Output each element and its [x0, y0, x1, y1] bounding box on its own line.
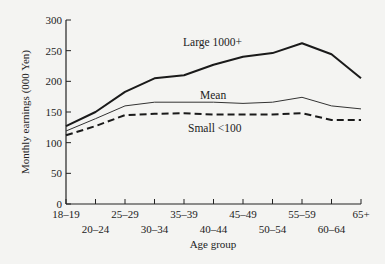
- series-label-large: Large 1000+: [183, 36, 242, 49]
- x-tick-label: 45–49: [229, 208, 257, 220]
- series-label-small: Small <100: [188, 122, 242, 134]
- x-tick-label: 25–29: [111, 208, 139, 220]
- x-tick-label: 20–24: [82, 223, 110, 235]
- x-axis-title: Age group: [190, 238, 237, 250]
- x-axis: 18–1920–2425–2930–3435–3940–4445–4950–54…: [52, 199, 369, 235]
- x-tick-label: 40–44: [200, 223, 228, 235]
- y-tick-label: 200: [46, 75, 63, 87]
- y-tick-label: 50: [51, 167, 63, 179]
- y-axis: 050100150200250300: [46, 14, 72, 210]
- x-tick-label: 30–34: [141, 223, 169, 235]
- y-tick-label: 100: [46, 137, 63, 149]
- x-tick-label: 50–54: [259, 223, 287, 235]
- x-tick-label: 18–19: [52, 208, 80, 220]
- series-line-large: [66, 43, 361, 126]
- y-axis-title: Monthly earnings (000 Yen): [19, 50, 32, 174]
- y-tick-label: 150: [46, 106, 63, 118]
- x-tick-label: 65+: [352, 208, 369, 220]
- y-tick-label: 300: [46, 14, 63, 26]
- x-tick-label: 60–64: [318, 223, 346, 235]
- y-tick-label: 250: [46, 45, 63, 57]
- x-tick-label: 55–59: [288, 208, 316, 220]
- series-label-mean: Mean: [200, 89, 226, 101]
- x-tick-label: 35–39: [170, 208, 198, 220]
- line-chart: 050100150200250300 18–1920–2425–2930–343…: [0, 0, 385, 264]
